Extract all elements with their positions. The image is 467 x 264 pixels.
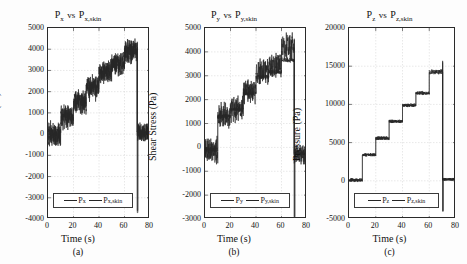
y-tick-label: 3000	[160, 70, 201, 79]
y-tick-label: 4000	[3, 44, 44, 53]
legend-line-swatch	[221, 200, 234, 201]
series-line-p-z-skin	[349, 62, 455, 210]
y-tick-label: 20000	[304, 23, 345, 32]
y-tick-label: -3000	[3, 192, 44, 201]
x-tick-label: 20	[371, 221, 379, 230]
legend-b[interactable]: PyPy,skin	[210, 193, 290, 208]
x-tick-label: 80	[145, 221, 153, 230]
y-tick-label: -5000	[304, 214, 345, 223]
legend-subscript: z,skin	[411, 198, 425, 204]
panel-c: Pz vs Pz,skin20000150001000050000-500002…	[312, 0, 467, 264]
legend-entry: Py	[221, 196, 243, 205]
legend-a[interactable]: PxPx,skin	[53, 193, 133, 208]
y-tick-label: 15000	[304, 61, 345, 70]
legend-line-swatch	[64, 200, 77, 201]
panel-title-a: Px vs Px,skin	[0, 9, 156, 23]
y-tick-label: 4000	[160, 46, 201, 55]
y-tick-label: -2000	[160, 190, 201, 199]
x-tick-label: 0	[202, 221, 206, 230]
legend-entry: Px,skin	[89, 196, 122, 205]
legend-line-swatch	[392, 200, 405, 201]
title-subscript-secondary: x,skin	[84, 15, 101, 23]
y-tick-label: 0	[304, 175, 345, 184]
x-axis-label-b: Time (s)	[156, 233, 312, 244]
y-tick-label: 2000	[3, 86, 44, 95]
panel-caption-a: (a)	[0, 247, 156, 257]
y-tick-label: 0	[160, 142, 201, 151]
y-tick-label: 5000	[160, 23, 201, 32]
series-line-p-z	[349, 61, 455, 212]
x-tick-label: 20	[226, 221, 234, 230]
x-tick-label: 40	[251, 221, 259, 230]
y-tick-label: -1000	[3, 150, 44, 159]
y-axis-label-b: Shear Stress (Pa)	[147, 92, 158, 160]
y-tick-label: 0	[3, 129, 44, 138]
series-line-p-x	[48, 39, 149, 213]
legend-subscript: z	[387, 198, 390, 204]
legend-line-swatch	[89, 200, 102, 201]
figure-canvas: Px vs Px,skin500040003000200010000-1000-…	[0, 0, 467, 264]
title-vs-text: vs	[64, 10, 79, 20]
x-tick-label: 60	[424, 221, 432, 230]
y-axis-label-c: Pressure (Pa)	[291, 107, 302, 160]
y-tick-label: -2000	[3, 171, 44, 180]
legend-entry: Pz,skin	[392, 196, 425, 205]
title-subscript-secondary: y,skin	[241, 15, 257, 23]
panel-caption-c: (c)	[312, 247, 467, 257]
panel-a: Px vs Px,skin500040003000200010000-1000-…	[0, 0, 156, 264]
x-tick-label: 20	[69, 221, 77, 230]
panel-title-b: Py vs Py,skin	[156, 9, 312, 23]
y-tick-label: -1000	[160, 166, 201, 175]
x-tick-label: 0	[45, 221, 49, 230]
legend-entry: Pz	[368, 196, 390, 205]
panel-caption-b: (b)	[156, 247, 312, 257]
x-axis-label-a: Time (s)	[0, 233, 156, 244]
panel-b: Py vs Py,skin500040003000200010000-1000-…	[156, 0, 312, 264]
legend-subscript: y,skin	[265, 198, 279, 204]
title-vs-text: vs	[375, 10, 390, 20]
legend-line-swatch	[368, 200, 381, 201]
plot-area-a	[47, 27, 149, 218]
x-tick-label: 60	[120, 221, 128, 230]
y-tick-label: 10000	[304, 99, 345, 108]
y-tick-label: 5000	[3, 23, 44, 32]
y-axis-label-a: Shear Stress (Pa)	[0, 92, 1, 160]
y-tick-label: -4000	[3, 214, 44, 223]
x-tick-label: 0	[346, 221, 350, 230]
legend-subscript: x	[83, 198, 86, 204]
plot-area-c	[348, 27, 455, 218]
x-tick-label: 40	[398, 221, 406, 230]
x-tick-label: 60	[277, 221, 285, 230]
y-tick-label: 1000	[3, 107, 44, 116]
legend-subscript: y	[240, 198, 243, 204]
y-tick-label: -3000	[160, 214, 201, 223]
title-vs-text: vs	[220, 10, 235, 20]
panel-title-c: Pz vs Pz,skin	[312, 9, 467, 23]
legend-entry: Py,skin	[246, 196, 279, 205]
y-tick-label: 3000	[3, 65, 44, 74]
legend-line-swatch	[246, 200, 259, 201]
y-tick-label: 2000	[160, 94, 201, 103]
legend-c[interactable]: PzPz,skin	[354, 193, 439, 208]
title-subscript-secondary: z,skin	[396, 15, 413, 23]
y-tick-label: 1000	[160, 118, 201, 127]
y-tick-label: 5000	[304, 137, 345, 146]
legend-entry: Px	[64, 196, 86, 205]
x-tick-label: 40	[94, 221, 102, 230]
legend-subscript: x,skin	[108, 198, 123, 204]
x-tick-label: 80	[451, 221, 459, 230]
x-axis-label-c: Time (s)	[312, 233, 467, 244]
